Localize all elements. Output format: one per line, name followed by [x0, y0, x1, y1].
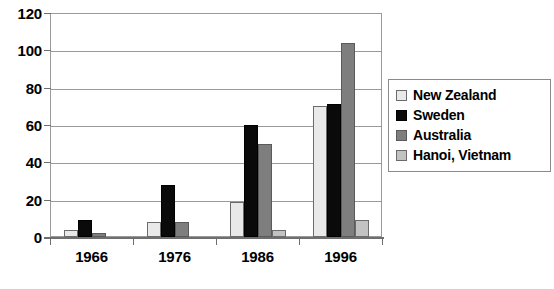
x-axis-tick	[216, 238, 217, 245]
y-axis-tick-label: 0	[0, 230, 42, 245]
x-axis-tick-label: 1966	[50, 249, 133, 264]
bar	[272, 230, 286, 237]
legend-swatch-icon	[396, 150, 407, 161]
bar	[161, 185, 175, 237]
y-axis-tick-label: 100	[0, 43, 42, 58]
x-axis-tick-label: 1996	[299, 249, 382, 264]
legend-item: New Zealand	[396, 85, 544, 105]
legend: New ZealandSwedenAustraliaHanoi, Vietnam	[388, 79, 551, 172]
bar	[258, 144, 272, 237]
bar-chart: 020406080100120 1966197619861996 New Zea…	[0, 0, 554, 289]
legend-label: Australia	[413, 128, 471, 142]
x-axis-tick-label: 1986	[216, 249, 299, 264]
x-axis-tick-label: 1976	[133, 249, 216, 264]
x-axis-tick	[133, 238, 134, 245]
y-axis-tick-label: 80	[0, 80, 42, 95]
bar	[230, 202, 244, 237]
legend-item: Hanoi, Vietnam	[396, 145, 544, 165]
legend-swatch-icon	[396, 130, 407, 141]
x-axis-tick	[382, 238, 383, 245]
x-axis-tick-labels: 1966197619861996	[50, 249, 382, 275]
y-axis-tick-labels: 020406080100120	[0, 0, 42, 250]
y-axis-tick-label: 40	[0, 155, 42, 170]
y-axis-tick-label: 60	[0, 118, 42, 133]
bar	[327, 104, 341, 237]
y-axis-tick-label: 120	[0, 6, 42, 21]
y-axis-tick-label: 20	[0, 192, 42, 207]
legend-item: Sweden	[396, 105, 544, 125]
legend-label: Sweden	[413, 108, 465, 122]
bars-layer	[50, 13, 382, 237]
legend-label: Hanoi, Vietnam	[413, 148, 511, 162]
legend-swatch-icon	[396, 110, 407, 121]
x-axis-line	[44, 237, 384, 239]
legend-item: Australia	[396, 125, 544, 145]
bar	[244, 125, 258, 237]
legend-swatch-icon	[396, 90, 407, 101]
bar	[78, 220, 92, 237]
bar	[64, 230, 78, 237]
bar	[147, 222, 161, 237]
bar	[341, 43, 355, 237]
legend-label: New Zealand	[413, 88, 496, 102]
bar	[355, 220, 369, 237]
bar	[313, 106, 327, 237]
bar	[175, 222, 189, 237]
x-axis-tick	[299, 238, 300, 245]
x-axis-tick	[50, 238, 51, 245]
